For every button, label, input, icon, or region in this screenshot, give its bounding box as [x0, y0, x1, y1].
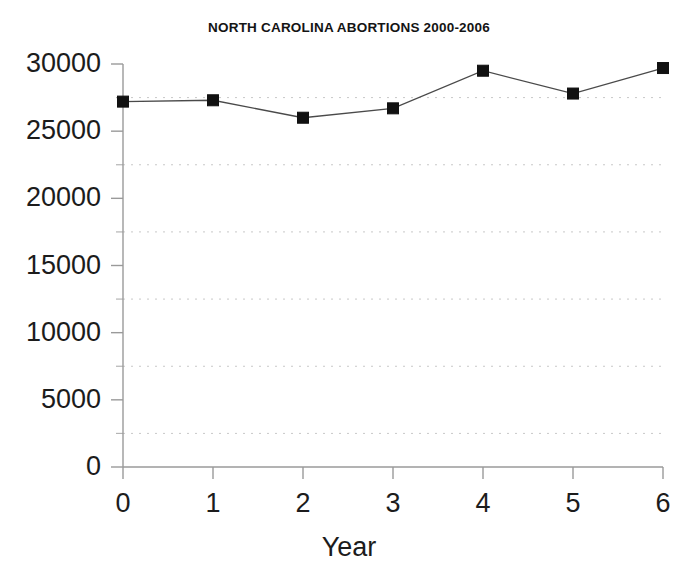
data-point-marker — [658, 63, 669, 74]
data-point-marker — [388, 103, 399, 114]
x-axis-title: Year — [322, 532, 377, 562]
y-tick-label: 15000 — [26, 250, 101, 280]
gridlines-group — [123, 98, 663, 434]
x-tick-label: 0 — [115, 488, 130, 518]
data-point-marker — [568, 88, 579, 99]
line-chart-plot: 050001000015000200002500030000 0123456 Y… — [0, 0, 698, 585]
x-tick-label: 2 — [295, 488, 310, 518]
axis-lines-group — [123, 64, 663, 467]
data-point-marker — [208, 95, 219, 106]
y-tick-label: 25000 — [26, 115, 101, 145]
x-tick-label: 5 — [565, 488, 580, 518]
data-point-marker — [298, 112, 309, 123]
y-tick-labels-group: 050001000015000200002500030000 — [26, 48, 101, 481]
data-series-group — [118, 63, 669, 124]
data-point-marker — [478, 65, 489, 76]
x-tick-label: 1 — [205, 488, 220, 518]
y-tick-label: 0 — [86, 451, 101, 481]
y-tick-label: 10000 — [26, 317, 101, 347]
chart-container: NORTH CAROLINA ABORTIONS 2000-2006 05000… — [0, 0, 698, 585]
x-tick-labels-group: 0123456 — [115, 488, 670, 518]
y-tick-label: 30000 — [26, 48, 101, 78]
series-markers-group — [118, 63, 669, 124]
data-point-marker — [118, 96, 129, 107]
y-tick-label: 20000 — [26, 182, 101, 212]
x-tick-label: 4 — [475, 488, 490, 518]
x-tick-label: 6 — [655, 488, 670, 518]
y-tick-label: 5000 — [41, 384, 101, 414]
x-tick-label: 3 — [385, 488, 400, 518]
major-ticks-group — [111, 64, 663, 479]
